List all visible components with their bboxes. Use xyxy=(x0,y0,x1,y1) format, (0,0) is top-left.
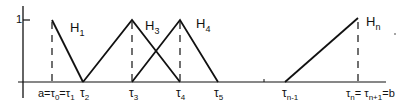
label-H3: H3 xyxy=(145,18,159,36)
xlabel-tau5: τ5 xyxy=(214,86,224,102)
xlabel-taun: τn= τn+1=b xyxy=(346,87,395,102)
label-H4: H4 xyxy=(196,16,210,34)
xlabel-tau4: τ4 xyxy=(176,86,186,102)
label-Hn: Hn xyxy=(366,14,380,32)
label-H1: H1 xyxy=(70,20,84,38)
Hn-curve xyxy=(285,18,358,82)
xlabel-taun-1: τn-1 xyxy=(282,86,299,102)
xlabel-tau2: τ2 xyxy=(80,86,90,102)
y-tick-label: 1 xyxy=(16,13,22,25)
xlabel-tau3: τ3 xyxy=(129,86,139,102)
stray-dot xyxy=(394,33,396,35)
hat-function-diagram: 1 H1 H3 H4 Hn a=τ0=τ1 τ2 τ3 τ4 τ5 τn-1 τ… xyxy=(0,0,403,107)
xlabel-tau0: a=τ0=τ1 xyxy=(38,87,75,102)
